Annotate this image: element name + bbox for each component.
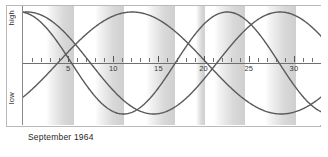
y-axis-line <box>22 6 23 125</box>
curve-intellectual <box>23 12 321 114</box>
x-tick-label: 20 <box>199 64 208 73</box>
footer-bar: September 1964 <box>6 126 321 146</box>
curve-physical <box>23 12 321 114</box>
plot-area: 51015202530 <box>23 6 321 125</box>
x-tick-label: 15 <box>154 64 163 73</box>
curve-emotional <box>23 12 321 114</box>
biorhythm-chart-window: 51015202530 high low September 1964 <box>0 0 328 157</box>
y-axis-label-low: low <box>7 92 16 104</box>
x-tick-label: 5 <box>66 64 70 73</box>
x-tick-label: 30 <box>290 64 299 73</box>
y-axis-label-high: high <box>7 10 16 25</box>
x-tick-label: 10 <box>109 64 118 73</box>
month-caption: September 1964 <box>28 132 94 142</box>
x-tick-label: 25 <box>244 64 253 73</box>
